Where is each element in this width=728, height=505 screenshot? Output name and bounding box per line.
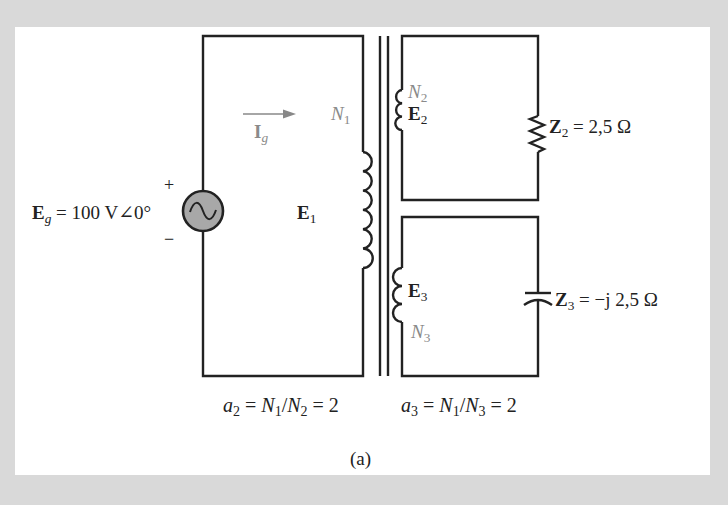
primary-wire-bottom	[203, 231, 363, 376]
secondary-3-coil-icon	[393, 268, 402, 322]
circuit-diagram	[0, 0, 728, 505]
ratio-a2: a2 = N1/N2 = 2	[223, 395, 339, 415]
minus-sign: −	[164, 230, 174, 248]
primary-coil-icon	[363, 152, 373, 268]
e2-label: E2	[408, 104, 427, 123]
z3-label: Z3 = −j 2,5 Ω	[555, 290, 658, 309]
n1-label: N1	[331, 104, 350, 123]
z2-label: Z2 = 2,5 Ω	[549, 117, 631, 136]
source-label: Eg = 100 V∠0°	[32, 203, 151, 222]
ratio-a3: a3 = N1/N3 = 2	[401, 395, 517, 415]
plus-sign: +	[164, 176, 174, 194]
resistor-icon	[530, 116, 544, 152]
figure-caption: (a)	[350, 449, 371, 468]
secondary-2-coil-icon	[395, 90, 402, 130]
n3-label: N3	[411, 322, 430, 341]
e1-label: E1	[297, 203, 316, 222]
arrow-right-icon	[243, 110, 296, 119]
ac-voltage-source-icon	[183, 191, 223, 231]
n2-label: N2	[408, 82, 427, 101]
current-label: Ig	[254, 122, 268, 141]
secondary-2-wire-bottom	[402, 130, 538, 200]
e3-label: E3	[408, 281, 427, 300]
